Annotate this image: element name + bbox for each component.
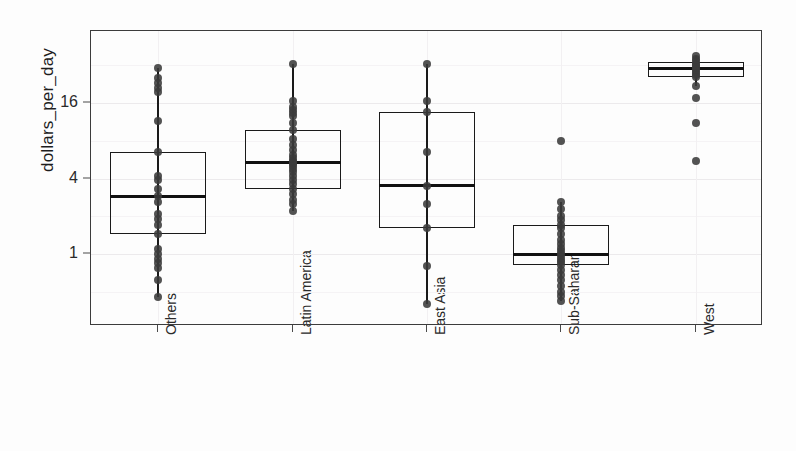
x-axis-tick-mark	[292, 325, 293, 332]
data-point	[692, 94, 700, 102]
y-axis-tick-mark	[83, 102, 90, 103]
x-axis-tick-mark	[426, 325, 427, 332]
y-axis-tick-mark	[83, 177, 90, 178]
y-axis-tick-label: 1	[44, 244, 78, 262]
y-axis-tick-label: 4	[44, 169, 78, 187]
data-point	[692, 82, 700, 90]
data-point	[692, 73, 700, 81]
data-point	[692, 119, 700, 127]
data-point	[692, 157, 700, 165]
chart-canvas: dollars_per_day 1641 OthersLatin America…	[0, 0, 796, 451]
x-axis-tick-mark	[157, 325, 158, 332]
x-axis-tick-mark	[560, 325, 561, 332]
x-axis-tick-mark	[695, 325, 696, 332]
boxplot-group	[91, 31, 761, 324]
plot-panel	[90, 30, 762, 325]
y-axis-tick-label: 16	[44, 93, 78, 111]
y-axis-tick-mark	[83, 253, 90, 254]
